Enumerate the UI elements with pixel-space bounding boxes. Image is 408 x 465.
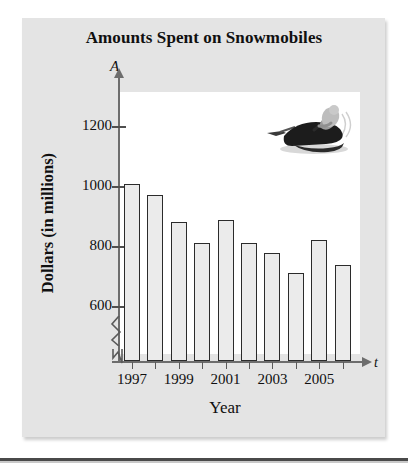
- y-axis-tick-label-text: 1000: [40, 177, 112, 194]
- bar-2005: [311, 240, 327, 362]
- x-axis-tick: [226, 362, 227, 369]
- x-axis-tick-label: 2003: [249, 371, 295, 388]
- x-axis-tick: [319, 362, 320, 369]
- figure-root: Amounts Spent on Snowmobiles A t Dollars…: [0, 0, 408, 465]
- x-axis-tick: [249, 362, 250, 369]
- y-axis-tick-label-text: 600: [40, 297, 112, 314]
- x-axis-tick-label: 1999: [156, 371, 202, 388]
- y-axis-tick-label-text: 800: [40, 237, 112, 254]
- snowmobile-photo: [262, 100, 358, 158]
- chart-title: Amounts Spent on Snowmobiles: [0, 28, 408, 48]
- bar-1998: [147, 195, 163, 362]
- x-axis-line: [112, 361, 364, 363]
- x-axis-tick: [343, 362, 344, 369]
- page-footer-rule: [0, 458, 408, 461]
- bar-1997: [124, 184, 140, 361]
- x-axis-tick: [272, 362, 273, 369]
- bar-2002: [241, 243, 257, 362]
- x-axis-symbol: t: [374, 355, 378, 371]
- x-axis-tick: [202, 362, 203, 369]
- bar-1999: [171, 222, 187, 362]
- x-axis-arrow: [362, 357, 372, 367]
- x-axis-tick-label: 1997: [109, 371, 155, 388]
- y-axis-tick: [112, 126, 126, 128]
- x-axis-title: Year: [110, 398, 340, 418]
- bar-2000: [194, 243, 210, 362]
- x-axis-tick-label: 2001: [203, 371, 249, 388]
- x-axis-tick: [132, 362, 133, 369]
- bar-2001: [218, 220, 234, 361]
- x-axis-tick-label: 2005: [296, 371, 342, 388]
- y-axis-arrow: [114, 68, 124, 78]
- y-axis-tick-label-text: 1200: [40, 117, 112, 134]
- bar-2004: [288, 273, 304, 361]
- x-axis-tick: [179, 362, 180, 369]
- x-axis-tick: [296, 362, 297, 369]
- bar-2006: [335, 265, 351, 361]
- bar-2003: [264, 253, 280, 361]
- x-axis-tick: [155, 362, 156, 369]
- y-axis-break-icon: [108, 316, 124, 350]
